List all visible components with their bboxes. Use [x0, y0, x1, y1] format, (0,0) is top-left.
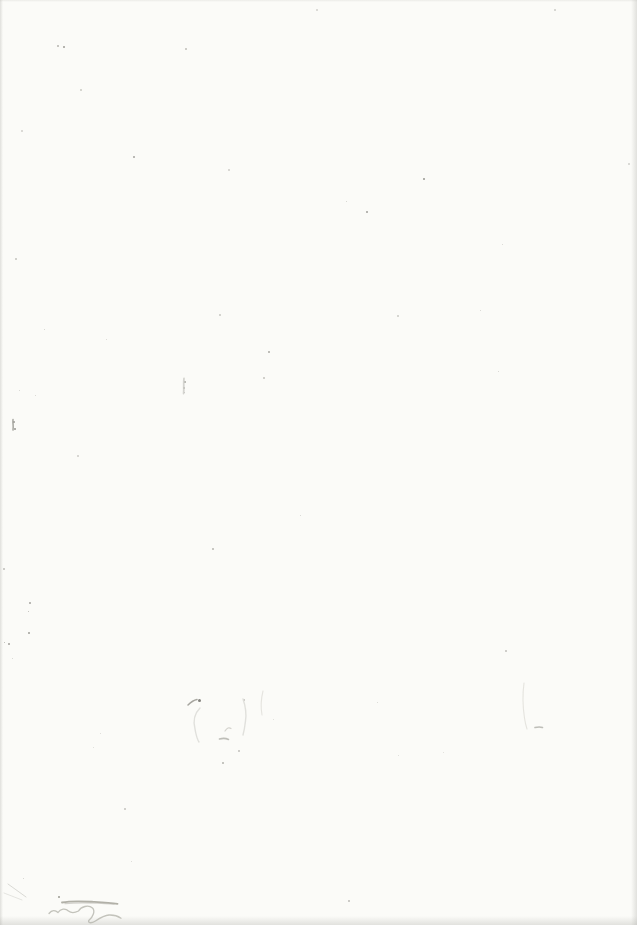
- paper-speck: [8, 643, 10, 645]
- paper-speck: [238, 750, 240, 752]
- ghost-ink-smudge: [188, 691, 263, 743]
- paper-speck: [443, 752, 444, 753]
- paper-speck: [366, 211, 368, 213]
- paper-speck: [80, 89, 82, 91]
- paper-speck: [133, 156, 135, 158]
- paper-speck: [212, 548, 214, 550]
- paper-speck: [124, 808, 126, 810]
- paper-speck: [3, 568, 5, 570]
- paper-speck: [44, 329, 45, 330]
- paper-speck: [184, 381, 186, 383]
- ghost-mark-right: [521, 683, 543, 731]
- paper-speck: [15, 258, 17, 260]
- ghost-right-curve: [243, 699, 246, 735]
- paper-speck: [397, 315, 399, 317]
- paper-speck: [423, 178, 425, 180]
- paper-speck: [183, 387, 185, 389]
- top-edge-shading: [0, 0, 637, 2]
- paper-speck: [4, 642, 5, 643]
- paper-speck: [19, 390, 20, 391]
- paper-speck: [316, 9, 318, 11]
- paper-speck: [502, 244, 503, 245]
- paper-speck: [185, 48, 187, 50]
- paper-speck: [377, 702, 378, 703]
- ghost-arc: [194, 708, 200, 742]
- pencil-strike-echo: [65, 903, 114, 904]
- paper-speck: [93, 747, 94, 748]
- paper-speck: [554, 9, 556, 11]
- marks-layer: [0, 0, 637, 925]
- right-edge-shading: [631, 0, 637, 925]
- ghost-small-check: [225, 728, 231, 731]
- paper-speck: [184, 392, 185, 393]
- ghost-right-tail: [535, 727, 543, 728]
- paper-speck: [14, 428, 16, 430]
- pencil-strike-line: [62, 901, 118, 904]
- ghost-right-curve-2: [261, 691, 263, 715]
- paper-speck: [12, 658, 13, 659]
- paper-speck: [35, 395, 36, 396]
- ghost-check-stroke: [188, 700, 197, 706]
- paper-speck: [498, 371, 499, 372]
- paper-speck: [198, 699, 201, 702]
- pencil-scribble: [49, 901, 121, 923]
- ghost-right-blob: [521, 724, 534, 731]
- corner-scratch-1: [8, 884, 26, 897]
- paper-speck: [346, 201, 347, 202]
- corner-scratch-2: [4, 893, 22, 900]
- paper-speck: [228, 169, 230, 171]
- paper-speck: [131, 861, 132, 862]
- paper-speck: [219, 314, 221, 316]
- paper-speck: [21, 130, 23, 132]
- paper-speck: [58, 896, 60, 898]
- paper-speck: [77, 455, 79, 457]
- left-edge-shading: [0, 0, 3, 925]
- top-left-corner-smudge: [0, 8, 6, 46]
- paper-speck: [13, 421, 15, 423]
- paper-speck: [348, 900, 350, 902]
- paper-speck: [505, 650, 507, 652]
- paper-speck: [480, 310, 481, 311]
- paper-speck: [29, 602, 31, 604]
- paper-speck: [243, 699, 245, 701]
- scanned-blank-page: [0, 0, 637, 925]
- pencil-cursive-squiggle: [49, 906, 121, 923]
- ink-blob-smudge: [220, 738, 229, 739]
- paper-speck: [628, 163, 630, 165]
- paper-speck: [106, 339, 107, 340]
- paper-speck: [222, 762, 224, 764]
- paper-speck: [300, 515, 301, 516]
- paper-speck: [268, 351, 270, 353]
- paper-speck: [273, 719, 274, 720]
- ghost-right-line: [523, 683, 527, 729]
- paper-speck: [57, 45, 59, 47]
- paper-speck: [23, 878, 24, 879]
- corner-scratches: [4, 884, 26, 900]
- paper-speck: [398, 755, 399, 756]
- paper-speck: [28, 632, 30, 634]
- paper-speck: [263, 377, 265, 379]
- paper-speck: [100, 733, 101, 734]
- bottom-edge-shading: [0, 916, 637, 925]
- speck-layer: [0, 0, 637, 925]
- ink-blob: [212, 735, 220, 743]
- paper-speck: [28, 611, 29, 612]
- paper-speck: [63, 46, 65, 48]
